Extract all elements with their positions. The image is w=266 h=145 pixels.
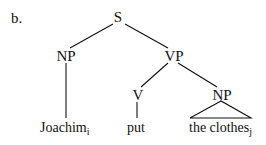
node-vp: VP xyxy=(164,49,183,64)
edge-vp-np xyxy=(178,63,217,87)
leaf-put: put xyxy=(127,121,145,135)
node-np-object: NP xyxy=(212,88,231,103)
edge-s-np xyxy=(70,24,113,48)
example-label: b. xyxy=(11,10,22,27)
node-v: V xyxy=(133,88,144,103)
edge-vp-v xyxy=(141,63,168,87)
edge-s-vp xyxy=(125,24,168,48)
node-s: S xyxy=(114,10,122,25)
index-j: j xyxy=(249,126,252,137)
triangle-np-clothes xyxy=(190,101,251,118)
node-np-subject: NP xyxy=(56,49,75,64)
leaf-joachim: Joachimi xyxy=(40,121,89,139)
index-i: i xyxy=(87,126,90,137)
leaf-the-clothes: the clothesj xyxy=(189,121,252,139)
